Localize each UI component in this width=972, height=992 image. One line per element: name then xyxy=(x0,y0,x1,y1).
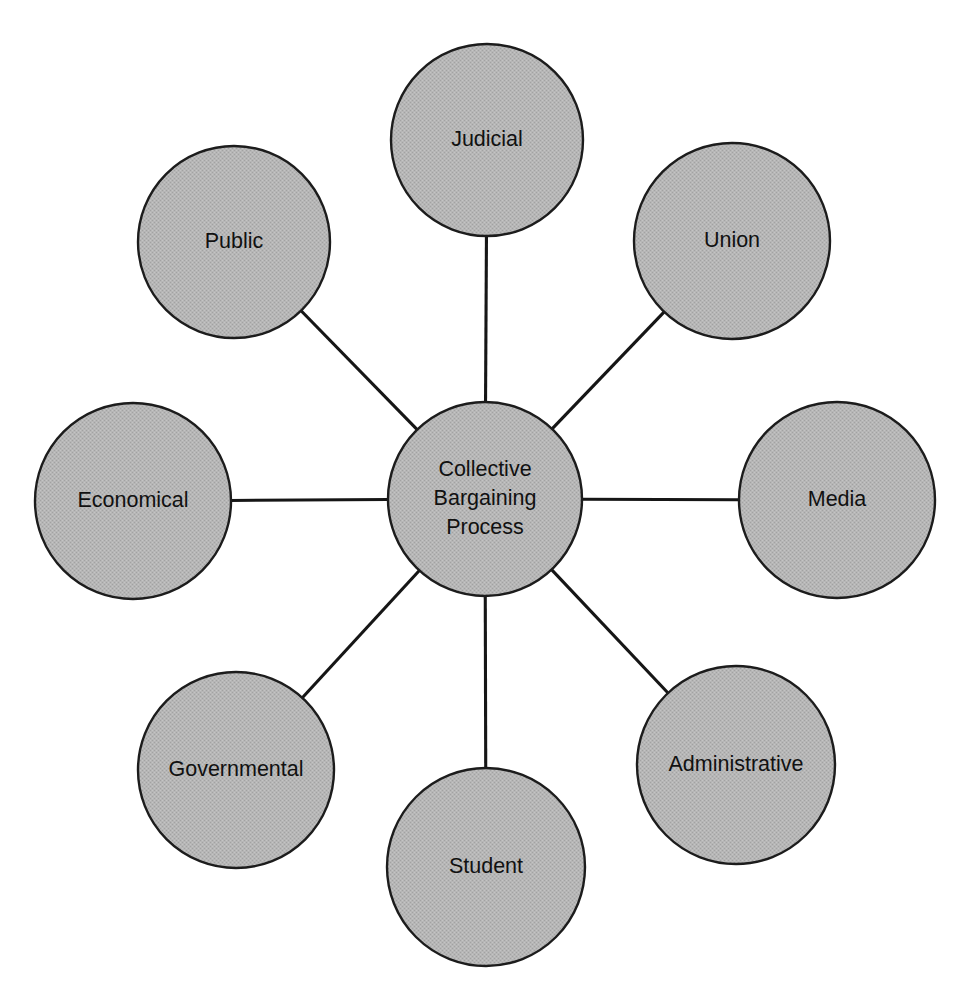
connector-collective-bargaining-process-to-administrative xyxy=(551,569,669,694)
node-label-public: Public xyxy=(205,229,264,253)
node-label-line: Administrative xyxy=(668,752,803,776)
node-governmental[interactable]: Governmental xyxy=(138,672,334,868)
connector-collective-bargaining-process-to-judicial xyxy=(486,235,487,403)
connector-collective-bargaining-process-to-union xyxy=(551,311,665,430)
node-label-line: Public xyxy=(205,229,264,253)
connector-collective-bargaining-process-to-public xyxy=(300,310,418,430)
node-judicial[interactable]: Judicial xyxy=(391,44,583,236)
node-collective-bargaining-process[interactable]: CollectiveBargainingProcess xyxy=(388,402,582,596)
connector-collective-bargaining-process-to-economical xyxy=(230,500,389,501)
node-label-line: Bargaining xyxy=(434,486,537,510)
node-label-governmental: Governmental xyxy=(168,757,303,781)
node-label-line: Process xyxy=(446,515,524,539)
node-economical[interactable]: Economical xyxy=(35,403,231,599)
node-label-line: Judicial xyxy=(451,127,523,151)
diagram-canvas: JudicialUnionMediaAdministrativeStudentG… xyxy=(0,0,972,992)
node-layer: JudicialUnionMediaAdministrativeStudentG… xyxy=(35,44,935,966)
node-label-union: Union xyxy=(704,228,760,252)
node-label-line: Governmental xyxy=(168,757,303,781)
node-union[interactable]: Union xyxy=(634,143,830,339)
connector-collective-bargaining-process-to-governmental xyxy=(302,570,420,699)
node-label-judicial: Judicial xyxy=(451,127,523,151)
node-label-line: Collective xyxy=(438,457,531,481)
node-public[interactable]: Public xyxy=(138,146,330,338)
node-label-media: Media xyxy=(808,487,867,511)
node-label-student: Student xyxy=(449,854,523,878)
node-label-line: Union xyxy=(704,228,760,252)
node-label-economical: Economical xyxy=(77,488,188,512)
node-label-line: Student xyxy=(449,854,523,878)
node-student[interactable]: Student xyxy=(387,768,585,966)
node-label-administrative: Administrative xyxy=(668,752,803,776)
node-administrative[interactable]: Administrative xyxy=(637,666,835,864)
node-label-line: Economical xyxy=(77,488,188,512)
node-media[interactable]: Media xyxy=(739,402,935,598)
node-label-collective-bargaining-process: CollectiveBargainingProcess xyxy=(434,457,537,539)
node-label-line: Media xyxy=(808,487,867,511)
radial-diagram: JudicialUnionMediaAdministrativeStudentG… xyxy=(0,0,972,992)
